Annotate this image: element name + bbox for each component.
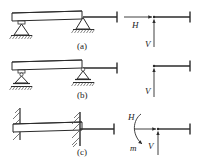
row-label-b: (b) — [77, 90, 88, 100]
force-label-H-a: H — [132, 20, 139, 30]
row-label-a: (a) — [77, 41, 87, 51]
row-b-freebody — [153, 61, 190, 98]
row-b-physical-roller — [10, 60, 83, 90]
row-label-c: (c) — [77, 147, 87, 157]
force-label-V-a: V — [145, 39, 151, 49]
row-a-physical-pinned — [10, 11, 83, 39]
figure-drawing — [0, 0, 197, 168]
force-label-V-b: V — [145, 86, 151, 96]
force-label-V-c: V — [148, 141, 154, 151]
support-reactions-figure: (a) (b) (c) H V V H V m — [0, 0, 197, 168]
force-label-H-c: H — [128, 112, 135, 122]
row-c-physical-fixed — [13, 108, 82, 140]
force-label-m-c: m — [130, 143, 137, 153]
row-c-freebody — [134, 114, 190, 155]
